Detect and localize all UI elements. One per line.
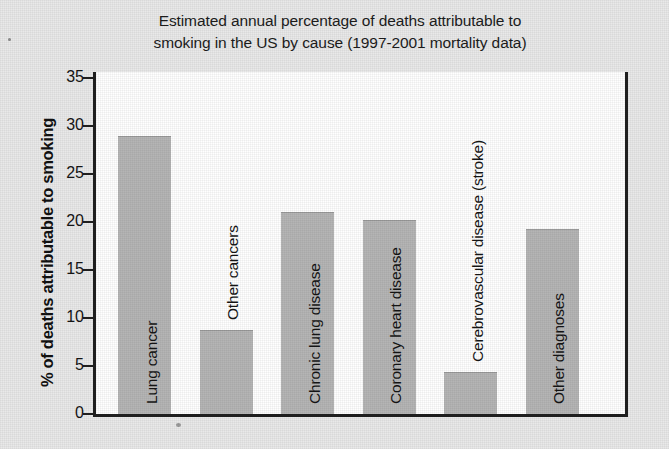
y-tick-label: 25 <box>48 165 84 181</box>
y-tick-label: 20 <box>48 213 84 229</box>
y-tick-label: 10 <box>48 309 84 325</box>
bars-container: Lung cancerOther cancersChronic lung dis… <box>96 72 625 414</box>
y-tick-mark <box>83 125 93 127</box>
y-tick-mark <box>83 413 93 415</box>
bar-category-label: Other cancers <box>224 225 242 320</box>
chart-figure: Estimated annual percentage of deaths at… <box>0 0 669 449</box>
y-tick-label: 35 <box>48 69 84 85</box>
scan-artifact-speck-2 <box>176 423 181 427</box>
bar-category-label: Cerebrovascular disease (stroke) <box>469 140 487 362</box>
chart-title-line-1: Estimated annual percentage of deaths at… <box>60 10 620 32</box>
y-tick-mark <box>83 77 93 79</box>
y-tick-label: 15 <box>48 261 84 277</box>
y-tick-mark <box>83 221 93 223</box>
scan-artifact-speck <box>8 38 11 41</box>
chart-title: Estimated annual percentage of deaths at… <box>60 10 620 54</box>
y-tick-label: 5 <box>48 357 84 373</box>
y-tick-label: 0 <box>48 405 84 421</box>
y-tick-mark <box>83 269 93 271</box>
bar <box>281 212 334 414</box>
y-tick-mark <box>83 365 93 367</box>
y-tick-label: 30 <box>48 117 84 133</box>
chart-title-line-2: smoking in the US by cause (1997-2001 mo… <box>60 32 620 54</box>
bar <box>363 220 416 414</box>
bar <box>526 229 579 414</box>
plot-area: Lung cancerOther cancersChronic lung dis… <box>93 72 628 417</box>
y-tick-mark <box>83 317 93 319</box>
bar <box>200 330 253 414</box>
bar <box>118 136 171 414</box>
y-tick-mark <box>83 173 93 175</box>
bar <box>444 372 497 414</box>
